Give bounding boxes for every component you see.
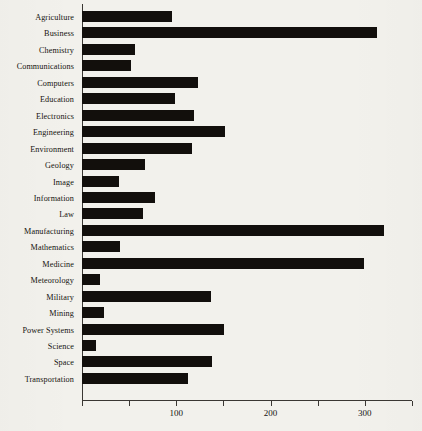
bar: [82, 324, 224, 335]
category-label: Transportation: [0, 374, 74, 385]
bar: [82, 291, 211, 302]
category-label: Environment: [0, 144, 74, 155]
bar: [82, 208, 143, 219]
category-label: Meteorology: [0, 275, 74, 286]
bar: [82, 11, 172, 22]
x-tick-label: 300: [358, 408, 372, 418]
bar: [82, 176, 119, 187]
bar: [82, 373, 188, 384]
category-label: Military: [0, 292, 74, 303]
bar: [82, 143, 192, 154]
category-label: Science: [0, 341, 74, 352]
category-label: Business: [0, 28, 74, 39]
horizontal-bar-chart: AgricultureBusinessChemistryCommunicatio…: [0, 0, 422, 431]
category-label: Law: [0, 209, 74, 220]
bar: [82, 258, 364, 269]
category-label: Space: [0, 357, 74, 368]
bar: [82, 356, 212, 367]
category-label: Mathematics: [0, 242, 74, 253]
category-label: Computers: [0, 78, 74, 89]
bar: [82, 274, 100, 285]
bar: [82, 27, 377, 38]
bar: [82, 60, 131, 71]
x-tick-label: 200: [264, 408, 278, 418]
x-tick-minor: [412, 401, 413, 406]
category-label: Engineering: [0, 127, 74, 138]
x-tick-major: [176, 401, 177, 406]
category-label: Power Systems: [0, 325, 74, 336]
category-label: Geology: [0, 160, 74, 171]
plot-area: [82, 0, 412, 400]
x-tick-major: [271, 401, 272, 406]
bar: [82, 159, 145, 170]
bar: [82, 44, 135, 55]
bar: [82, 93, 175, 104]
x-axis-line: [82, 400, 412, 401]
bar: [82, 340, 96, 351]
bar: [82, 307, 104, 318]
category-label: Medicine: [0, 259, 74, 270]
category-label: Mining: [0, 308, 74, 319]
x-axis: 100200300: [82, 400, 412, 431]
x-tick-minor: [223, 401, 224, 406]
x-tick-minor: [129, 401, 130, 406]
x-tick-minor: [318, 401, 319, 406]
category-label: Image: [0, 177, 74, 188]
category-label: Information: [0, 193, 74, 204]
category-label: Electronics: [0, 111, 74, 122]
category-label: Agriculture: [0, 12, 74, 23]
x-tick-label: 100: [170, 408, 184, 418]
bar: [82, 77, 198, 88]
category-label: Education: [0, 94, 74, 105]
bar: [82, 241, 120, 252]
x-tick-minor: [82, 401, 83, 406]
bar: [82, 126, 225, 137]
x-tick-major: [365, 401, 366, 406]
bar: [82, 110, 194, 121]
category-label: Chemistry: [0, 45, 74, 56]
category-label: Communications: [0, 61, 74, 72]
category-label-column: AgricultureBusinessChemistryCommunicatio…: [0, 0, 78, 431]
category-label: Manufacturing: [0, 226, 74, 237]
bar: [82, 225, 384, 236]
bar: [82, 192, 155, 203]
